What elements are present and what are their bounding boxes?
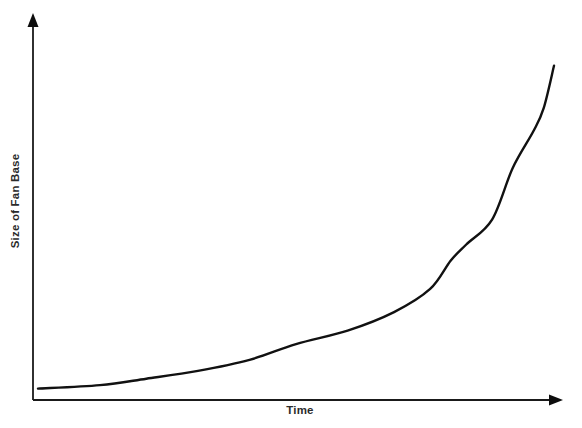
chart-container: Time Size of Fan Base (0, 0, 582, 428)
y-axis-label: Size of Fan Base (9, 154, 21, 249)
x-axis-label: Time (286, 404, 313, 416)
exponential-growth-chart: Time Size of Fan Base (0, 0, 582, 428)
